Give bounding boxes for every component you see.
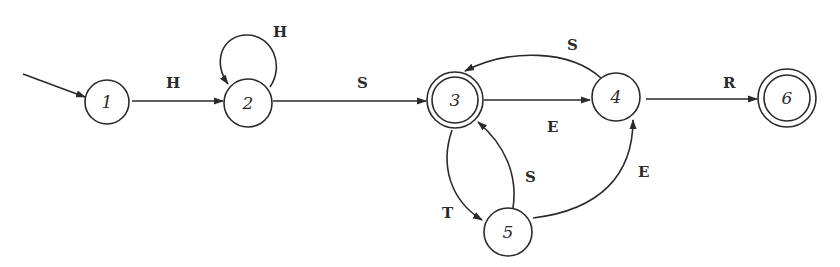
svg-text:1: 1 [102,92,113,112]
edge-label-1-2: H [166,74,180,92]
start-arrow [23,74,85,97]
edge-label-2-3: S [357,74,368,92]
edge-5-3 [478,122,514,208]
state-6-accepting: 6 [758,69,816,127]
svg-text:3: 3 [450,90,461,110]
edge-label-4-6: R [723,74,736,92]
edge-label-2-2: H [273,23,287,41]
svg-text:6: 6 [782,88,793,108]
edge-label-5-4: E [638,163,649,181]
edge-label-4-3: S [567,36,578,54]
edge-label-3-5: T [442,204,454,222]
edge-label-3-4: E [547,118,558,136]
svg-text:4: 4 [610,87,622,107]
svg-text:2: 2 [242,93,254,113]
svg-text:5: 5 [503,222,514,242]
edge-label-5-3: S [525,168,536,186]
state-diagram: H H S E S T S E R 1 2 3 4 5 [0,0,840,267]
state-3-accepting: 3 [427,72,483,128]
state-5: 5 [484,208,532,256]
state-1: 1 [85,80,129,124]
edge-4-3 [465,55,601,78]
state-2: 2 [224,79,272,127]
state-4: 4 [592,73,640,121]
